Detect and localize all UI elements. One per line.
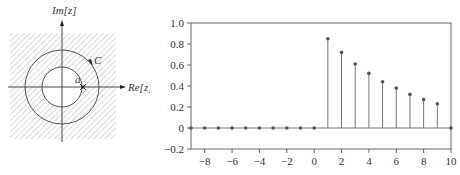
y-axis-ticks: −0.200.20.40.60.81.0 (164, 17, 191, 155)
re-axis-arrow-icon (120, 85, 126, 89)
stem-marker (258, 126, 262, 130)
y-tick-label: 0.8 (170, 38, 184, 50)
stem-marker (271, 126, 275, 130)
stem-marker (189, 126, 193, 130)
x-tick-label: 2 (339, 155, 345, 167)
x-tick-label: 10 (446, 155, 458, 167)
im-axis-label: Im[z] (51, 4, 76, 16)
stem-marker (353, 62, 357, 66)
x-tick-label: 6 (394, 155, 400, 167)
stem-series (189, 37, 453, 130)
y-tick-label: 0.6 (170, 59, 184, 71)
y-tick-label: 0.2 (170, 101, 184, 113)
plot-frame (191, 23, 451, 149)
pole-label: a (75, 73, 81, 85)
stem-marker (312, 126, 316, 130)
x-tick-label: 8 (421, 155, 427, 167)
stem-marker (381, 80, 385, 84)
y-tick-label: 1.0 (170, 17, 184, 29)
x-tick-label: 4 (366, 155, 372, 167)
y-tick-label: 0 (179, 122, 185, 134)
stem-marker (299, 126, 303, 130)
stem-marker (285, 126, 289, 130)
stem-marker (203, 126, 207, 130)
stem-marker (230, 126, 234, 130)
z-plane-diagram: Im[z] Re[z] C a (0, 0, 150, 175)
x-tick-label: −2 (281, 155, 293, 167)
stem-marker (436, 102, 440, 106)
x-tick-label: 0 (311, 155, 317, 167)
stem-marker (449, 126, 453, 130)
x-tick-label: −4 (254, 155, 266, 167)
stem-marker (326, 37, 330, 41)
stem-marker (394, 86, 398, 90)
stem-marker (244, 126, 248, 130)
y-tick-label: 0.4 (170, 80, 184, 92)
stem-plot: −0.200.20.40.60.81.0 −8−6−4−20246810 (150, 0, 460, 175)
y-tick-label: −0.2 (164, 143, 184, 155)
stem-marker (340, 51, 344, 55)
x-tick-label: −6 (226, 155, 238, 167)
contour-label: C (94, 54, 102, 66)
stem-marker (217, 126, 221, 130)
x-tick-label: −8 (199, 155, 211, 167)
im-axis-arrow-icon (60, 20, 64, 26)
x-axis-ticks: −8−6−4−20246810 (199, 149, 457, 167)
stem-marker (422, 98, 426, 102)
stem-marker (367, 72, 371, 76)
stem-marker (408, 93, 412, 97)
re-axis-label: Re[z] (127, 81, 150, 93)
